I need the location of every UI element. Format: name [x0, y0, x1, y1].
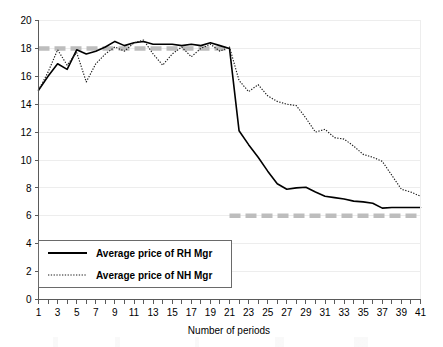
x-tick-label: 39 [396, 307, 408, 318]
x-tick-label: 5 [74, 307, 80, 318]
x-tick-label: 17 [186, 307, 198, 318]
x-tick-label: 29 [300, 307, 312, 318]
x-tick-label: 11 [129, 307, 140, 318]
x-tick-label: 31 [319, 307, 331, 318]
legend-label-rh: Average price of RH Mgr [96, 248, 212, 259]
data-series [39, 40, 421, 208]
line-chart: 02468101214161820 1357911131517192123252… [0, 0, 443, 347]
x-tick-label: 13 [148, 307, 160, 318]
page-edge-artifact [0, 337, 443, 347]
x-tick-label: 9 [112, 307, 118, 318]
x-axis-ticks: 1357911131517192123252729313335373941 [36, 300, 427, 318]
x-tick-label: 37 [377, 307, 389, 318]
x-tick-label: 7 [93, 307, 99, 318]
x-axis-title: Number of periods [188, 325, 270, 336]
x-tick-label: 15 [167, 307, 179, 318]
y-tick-label: 16 [20, 71, 32, 82]
x-tick-label: 33 [339, 307, 351, 318]
series-line-nh-mgr [39, 40, 421, 196]
y-tick-label: 4 [26, 238, 32, 249]
x-tick-label: 41 [415, 307, 427, 318]
y-tick-label: 0 [26, 294, 32, 305]
x-tick-label: 27 [281, 307, 293, 318]
chart-legend: Average price of RH Mgr Average price of… [39, 241, 232, 288]
chart-container: 02468101214161820 1357911131517192123252… [0, 0, 443, 347]
x-tick-label: 23 [243, 307, 255, 318]
y-tick-label: 14 [20, 99, 32, 110]
y-tick-label: 2 [26, 266, 32, 277]
y-axis-ticks: 02468101214161820 [20, 15, 38, 305]
y-tick-label: 6 [26, 210, 32, 221]
y-tick-label: 18 [20, 43, 32, 54]
x-tick-label: 1 [36, 307, 42, 318]
x-tick-label: 19 [205, 307, 217, 318]
x-tick-label: 35 [358, 307, 370, 318]
y-tick-label: 10 [20, 155, 32, 166]
y-tick-label: 20 [20, 15, 32, 26]
y-tick-label: 8 [26, 183, 32, 194]
y-tick-label: 12 [20, 127, 32, 138]
gridlines [39, 21, 421, 272]
legend-label-nh: Average price of NH Mgr [96, 270, 212, 281]
series-line-rh-mgr [39, 41, 421, 208]
x-tick-label: 25 [262, 307, 274, 318]
x-tick-label: 21 [224, 307, 236, 318]
x-tick-label: 3 [55, 307, 61, 318]
